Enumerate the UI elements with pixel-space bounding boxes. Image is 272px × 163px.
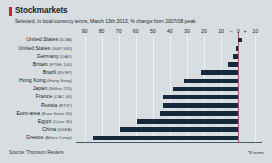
category-label: Egypt (Case 30) [38, 118, 72, 125]
bar-row: United States (S&P 500) [76, 44, 262, 52]
bar-row: France (CAC 40) [76, 93, 262, 101]
x-tick-+: + [243, 28, 246, 34]
bar [201, 70, 239, 75]
category-label: Greece (Athex Comp) [26, 134, 72, 141]
bar [137, 119, 238, 124]
bar-row: Euro-area (Euro Stoxx 50) [76, 109, 262, 117]
bar [228, 62, 238, 67]
bar-row: Japan (Nikkei 225) [76, 85, 262, 93]
x-tick-20: 20 [201, 28, 207, 34]
bar-row: Britain (FTSE 100) [76, 60, 262, 68]
x-tick-80: 80 [99, 28, 105, 34]
bar-row: Brazil (BVSP) [76, 69, 262, 77]
chart-title: Stockmarkets [15, 6, 68, 15]
category-label: Russia (RTS*) [41, 102, 72, 109]
bar [160, 111, 238, 116]
x-tick-40: 40 [167, 28, 173, 34]
bar [184, 79, 239, 84]
bar-row: Germany (DAX) [76, 52, 262, 60]
x-tick-90: 90 [82, 28, 88, 34]
x-tick-0: 0 [237, 28, 240, 34]
bar-row: Russia (RTS*) [76, 101, 262, 109]
bar [163, 103, 238, 108]
x-tick-50: 50 [150, 28, 156, 34]
bar [236, 46, 238, 51]
bar [93, 136, 238, 141]
bar-row: Greece (Athex Comp) [76, 134, 262, 142]
category-label: Germany (DAX) [37, 53, 72, 60]
category-label: Brazil (BVSP) [43, 69, 72, 76]
footnote: *$ terms [248, 150, 264, 155]
x-tick-70: 70 [116, 28, 122, 34]
axis-baseline [76, 142, 262, 143]
bar-row: United States (DJIA) [76, 36, 262, 44]
bar [173, 87, 238, 92]
x-tick-–: – [230, 28, 233, 34]
bar [238, 38, 241, 43]
accent-bar [9, 7, 12, 16]
bar [163, 95, 238, 100]
category-label: France (CAC 40) [36, 93, 72, 100]
category-label: United States (DJIA) [26, 36, 72, 43]
bar-row: Egypt (Case 30) [76, 118, 262, 126]
plot-area: 908070605040302010–0+10 United States (D… [76, 36, 262, 142]
bar-row: China (SSEA) [76, 126, 262, 134]
category-label: United States (S&P 500) [19, 45, 72, 52]
x-tick-10: 10 [252, 28, 258, 34]
category-label: Britain (FTSE 100) [33, 61, 72, 68]
category-label: Japan (Nikkei 225) [33, 85, 72, 92]
x-tick-60: 60 [133, 28, 139, 34]
x-tick-10: 10 [218, 28, 224, 34]
bar [233, 54, 238, 59]
chart-subtitle: Selected, in local-currency terms, March… [15, 18, 195, 24]
x-tick-30: 30 [184, 28, 190, 34]
source-note: Source: Thomson Reuters [9, 150, 64, 155]
category-label: China (SSEA) [42, 126, 72, 133]
category-label: Hong Kong (Hang Seng) [19, 77, 72, 84]
stockmarkets-chart-figure: Stockmarkets Selected, in local-currency… [0, 0, 272, 163]
category-label: Euro-area (Euro Stoxx 50) [16, 110, 72, 117]
bar [120, 127, 238, 132]
bar-row: Hong Kong (Hang Seng) [76, 77, 262, 85]
